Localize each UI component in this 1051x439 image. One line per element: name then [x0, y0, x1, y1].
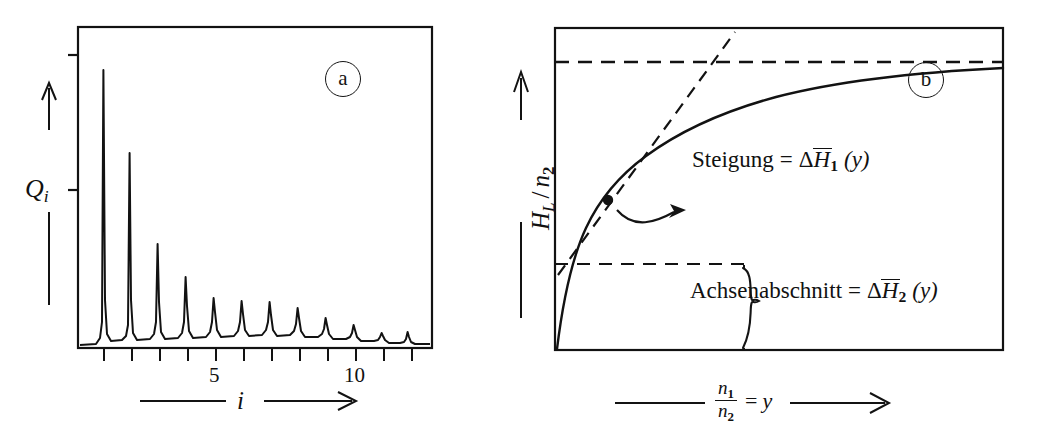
- panel-b-y-den-subscript: 2: [539, 167, 558, 176]
- panel-a-x-symbol: i: [237, 387, 244, 414]
- panel-b-y-divider: /: [527, 188, 554, 203]
- panel-b-y-num-symbol: H: [527, 212, 554, 230]
- slope-subscript: 1: [830, 157, 838, 174]
- slope-prefix: Steigung: [692, 147, 774, 172]
- panel-b-slope-annotation: Steigung=ΔH1(y): [692, 147, 870, 175]
- panel-b-x-num-symbol: n: [718, 377, 728, 398]
- panel-b-y-axis-label: HL/n2: [527, 167, 559, 230]
- panel-a-y-subscript: i: [44, 186, 49, 206]
- panel-b-slope-arrow: [617, 204, 686, 222]
- panel-a-xtick-10: 10: [344, 363, 365, 388]
- panel-b-y-num-subscript: L: [539, 202, 558, 211]
- panel-b-plot: [500, 0, 1051, 439]
- panel-b-curve: [557, 68, 1003, 349]
- slope-symbol: H: [814, 147, 831, 173]
- panel-a-x-axis-label: i: [237, 387, 244, 415]
- intercept-equals: =: [842, 278, 867, 303]
- panel-b-x-den-subscript: 2: [728, 409, 734, 424]
- intercept-delta: Δ: [867, 278, 882, 303]
- panel-b-x-variable: y: [762, 388, 772, 413]
- panel-a: a Qi 5 10 i: [0, 0, 500, 439]
- slope-delta: Δ: [799, 147, 814, 172]
- panel-b-x-equals: =: [737, 388, 762, 413]
- panel-b-y-den-symbol: n: [527, 175, 554, 188]
- panel-b-badge: b: [908, 62, 944, 98]
- panel-b-x-num-subscript: 1: [728, 386, 734, 401]
- panel-b-x-denominator: n2: [715, 400, 737, 423]
- panel-b-x-den-symbol: n: [718, 400, 728, 421]
- intercept-argument: (y): [906, 278, 938, 303]
- panel-a-x-ticks: [104, 348, 412, 361]
- panel-a-badge: a: [325, 61, 361, 97]
- panel-b: b HL/n2 Steigung=ΔH1(y) Achsenabschnitt=…: [500, 0, 1051, 439]
- intercept-prefix: Achsenabschnitt: [690, 278, 842, 303]
- panel-a-plot: [0, 0, 500, 439]
- panel-b-x-fraction: n1 n2: [715, 378, 737, 423]
- panel-b-tangent-point: [603, 195, 613, 205]
- figure-root: a Qi 5 10 i: [0, 0, 1051, 439]
- slope-argument: (y): [838, 147, 870, 172]
- panel-a-y-axis-label: Qi: [25, 174, 49, 207]
- panel-a-xtick-5: 5: [209, 363, 220, 388]
- panel-a-spectrum-curve: [80, 70, 430, 345]
- intercept-symbol: H: [882, 278, 899, 304]
- slope-equals: =: [774, 147, 799, 172]
- panel-b-x-axis-label: n1 n2 =y: [715, 378, 772, 423]
- panel-b-x-numerator: n1: [715, 378, 737, 400]
- panel-a-y-ticks: [68, 55, 78, 190]
- panel-a-x-axis-arrow: [140, 392, 356, 410]
- panel-b-intercept-annotation: Achsenabschnitt=ΔH2(y): [690, 278, 938, 306]
- panel-a-y-symbol: Q: [25, 174, 44, 203]
- panel-b-y-axis-arrow: [514, 72, 528, 318]
